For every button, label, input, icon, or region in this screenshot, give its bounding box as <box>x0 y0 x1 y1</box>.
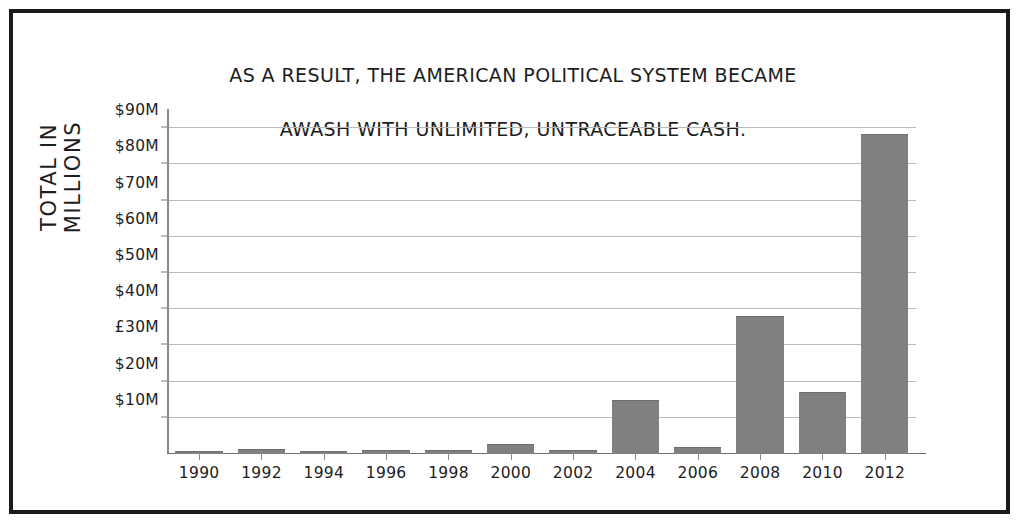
bar <box>736 316 783 454</box>
y-axis-tick-label: $90M <box>115 101 159 119</box>
x-tick-mark <box>511 454 512 460</box>
x-tick-mark <box>261 454 262 460</box>
bar-group: 1992 <box>230 110 292 454</box>
x-axis-tick-label: 1994 <box>303 464 344 482</box>
x-tick-mark <box>386 454 387 460</box>
bar-group: 2010 <box>791 110 853 454</box>
y-axis-tick-label: $20M <box>115 355 159 373</box>
bar <box>799 392 846 454</box>
x-tick-mark <box>822 454 823 460</box>
x-tick-mark <box>573 454 574 460</box>
x-tick-mark <box>760 454 761 460</box>
bar-group: 2000 <box>480 110 542 454</box>
x-tick-mark <box>635 454 636 460</box>
x-tick-mark <box>448 454 449 460</box>
x-tick-mark <box>885 454 886 460</box>
chart-border-frame: AS A RESULT, THE AMERICAN POLITICAL SYST… <box>9 9 1010 514</box>
x-axis-tick-label: 2002 <box>553 464 594 482</box>
y-axis-tick-label: $60M <box>115 210 159 228</box>
x-axis-tick-label: 2008 <box>740 464 781 482</box>
y-axis-tick-label: $80M <box>115 137 159 155</box>
bar-group: 1990 <box>168 110 230 454</box>
bar-group: 1996 <box>355 110 417 454</box>
y-axis-title: TOTAL IN MILLIONS <box>37 67 85 287</box>
x-axis-tick-label: 1998 <box>428 464 469 482</box>
chart-inner: AS A RESULT, THE AMERICAN POLITICAL SYST… <box>13 13 1006 510</box>
bar-group: 2004 <box>604 110 666 454</box>
bar <box>487 444 534 454</box>
x-axis-tick-label: 1996 <box>366 464 407 482</box>
y-axis-tick-label: $50M <box>115 246 159 264</box>
x-axis-tick-label: 2006 <box>677 464 718 482</box>
x-tick-mark <box>199 454 200 460</box>
bar-series: 1990199219941996199820002002200420062008… <box>168 110 916 454</box>
y-axis-tick-label: $40M <box>115 282 159 300</box>
bar <box>861 134 908 454</box>
bar <box>612 400 659 454</box>
x-tick-mark <box>324 454 325 460</box>
bar-group: 2006 <box>667 110 729 454</box>
y-axis-tick-label: $10M <box>115 391 159 409</box>
x-axis-tick-label: 1992 <box>241 464 282 482</box>
bar-group: 2008 <box>729 110 791 454</box>
x-axis-tick-label: 1990 <box>179 464 220 482</box>
bar-group: 1994 <box>293 110 355 454</box>
x-axis-tick-label: 2004 <box>615 464 656 482</box>
y-axis-tick-label: $70M <box>115 174 159 192</box>
y-axis-tick-label: £30M <box>115 318 159 336</box>
bar-group: 1998 <box>417 110 479 454</box>
x-axis-tick-label: 2010 <box>802 464 843 482</box>
x-axis-tick-label: 2012 <box>864 464 905 482</box>
x-tick-mark <box>698 454 699 460</box>
plot-area: $10M$20M£30M$40M$50M$60M$70M$80M$90M 199… <box>168 110 916 454</box>
bar-group: 2012 <box>854 110 916 454</box>
chart-figure: AS A RESULT, THE AMERICAN POLITICAL SYST… <box>0 0 1019 523</box>
bar-group: 2002 <box>542 110 604 454</box>
chart-title-line-1: AS A RESULT, THE AMERICAN POLITICAL SYST… <box>83 62 943 89</box>
x-axis-tick-label: 2000 <box>490 464 531 482</box>
